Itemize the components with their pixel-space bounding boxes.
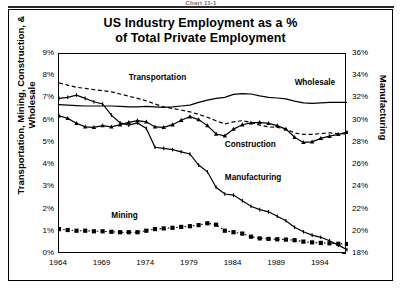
data-point-mining (109, 230, 113, 234)
x-tick-1989: 1989 (256, 258, 296, 267)
y-tick-left-3: 3% (28, 182, 54, 190)
data-point-mining (58, 227, 61, 231)
data-point-mining (179, 225, 183, 229)
data-point-mining (293, 238, 297, 242)
chart-title: US Industry Employment as a % of Total P… (9, 16, 392, 45)
series-label-manufacturing: Manufacturing (225, 173, 281, 182)
y-tick-left-2: 2% (28, 205, 54, 213)
data-point-mining (240, 232, 244, 236)
chart-title-line1: US Industry Employment as a % (9, 16, 392, 31)
data-point-mining (275, 237, 279, 241)
data-point-mining (205, 221, 209, 225)
data-point-mining (92, 229, 96, 233)
y-tick-left-8: 8% (28, 71, 54, 79)
data-point-mining (301, 240, 305, 244)
series-line-manufacturing (59, 95, 347, 250)
y-tick-right-32: 32% (352, 93, 378, 101)
x-tick-1979: 1979 (169, 258, 209, 267)
x-tick-1984: 1984 (213, 258, 253, 267)
data-point-mining (144, 229, 148, 233)
data-point-mining (153, 227, 157, 231)
y-tick-right-30: 30% (352, 116, 378, 124)
data-point-construction (188, 114, 192, 118)
y-tick-left-0: 0% (28, 249, 54, 257)
data-point-construction (58, 113, 61, 117)
data-point-mining (170, 226, 174, 230)
series-line-construction (59, 116, 347, 143)
y-tick-left-6: 6% (28, 116, 54, 124)
y-tick-right-22: 22% (352, 205, 378, 213)
data-point-mining (135, 230, 139, 234)
y-tick-right-36: 36% (352, 49, 378, 57)
x-tick-1974: 1974 (125, 258, 165, 267)
chart-screenshot: Chart 11-1 US Industry Employment as a %… (0, 0, 402, 288)
y-tick-right-24: 24% (352, 182, 378, 190)
data-point-mining (266, 237, 270, 241)
data-point-mining (101, 229, 105, 233)
chart-title-line2: of Total Private Employment (9, 31, 392, 46)
y-tick-right-34: 34% (352, 71, 378, 79)
data-point-mining (310, 240, 314, 244)
series-label-mining: Mining (111, 211, 137, 220)
y-tick-right-20: 20% (352, 227, 378, 235)
series-label-transportation: Transportation (129, 73, 186, 82)
chart-frame: US Industry Employment as a % of Total P… (8, 9, 393, 281)
data-point-mining (214, 223, 218, 227)
data-point-mining (249, 235, 253, 239)
y-tick-left-5: 5% (28, 138, 54, 146)
chart-caption: Chart 11-1 (0, 0, 402, 7)
plot-area: TransportationWholesaleConstructionManuf… (58, 53, 346, 253)
data-point-mining (223, 229, 227, 233)
x-tick-1969: 1969 (82, 258, 122, 267)
y-tick-right-26: 26% (352, 160, 378, 168)
y-tick-right-28: 28% (352, 138, 378, 146)
data-point-mining (127, 230, 131, 234)
series-label-construction: Construction (225, 140, 276, 149)
data-point-mining (345, 242, 348, 246)
y-tick-left-1: 1% (28, 227, 54, 235)
data-point-mining (231, 230, 235, 234)
y-tick-left-7: 7% (28, 93, 54, 101)
data-point-mining (319, 241, 323, 245)
x-tick-1994: 1994 (300, 258, 340, 267)
data-point-mining (284, 238, 288, 242)
data-point-mining (197, 223, 201, 227)
y-tick-left-9: 9% (28, 49, 54, 57)
data-point-mining (74, 229, 78, 233)
data-point-mining (258, 236, 262, 240)
series-label-wholesale: Wholesale (295, 78, 336, 87)
data-point-mining (188, 224, 192, 228)
data-point-mining (83, 229, 87, 233)
y-axis-label-right: Manufacturing (378, 33, 389, 183)
data-point-mining (66, 228, 70, 232)
data-point-mining (162, 226, 166, 230)
y-tick-right-18: 18% (352, 249, 378, 257)
y-tick-left-4: 4% (28, 160, 54, 168)
data-point-mining (118, 230, 122, 234)
data-point-construction (345, 130, 348, 134)
x-tick-1964: 1964 (38, 258, 78, 267)
